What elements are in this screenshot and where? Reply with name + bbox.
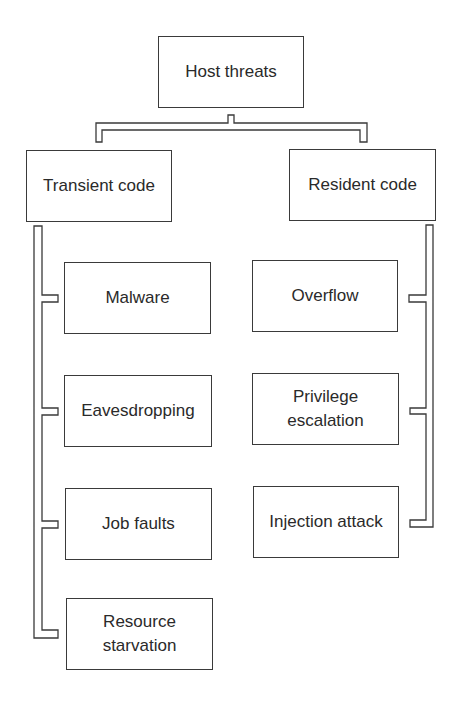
node-privilege-escalation: Privilege escalation [252,373,399,445]
node-host-threats: Host threats [158,36,304,108]
node-label: Resident code [308,173,417,197]
node-resident-code: Resident code [289,149,436,221]
node-label: Privilege escalation [287,385,364,433]
resident-spine-connector [409,225,433,527]
host-threats-diagram: Host threats Transient code Resident cod… [0,0,460,712]
node-label: Resource starvation [103,610,177,658]
transient-spine-connector [34,226,58,638]
root-connector [96,115,367,142]
node-job-faults: Job faults [65,488,212,560]
node-transient-code: Transient code [26,150,172,222]
node-label: Host threats [185,60,277,84]
node-label: Malware [105,286,169,310]
node-label: Eavesdropping [81,399,194,423]
node-label: Transient code [43,174,155,198]
node-eavesdropping: Eavesdropping [64,375,212,447]
node-overflow: Overflow [252,260,398,332]
node-malware: Malware [64,262,211,334]
node-injection-attack: Injection attack [253,486,399,558]
node-label: Injection attack [269,510,382,534]
node-resource-starvation: Resource starvation [66,598,213,670]
node-label: Job faults [102,512,175,536]
node-label: Overflow [291,284,358,308]
